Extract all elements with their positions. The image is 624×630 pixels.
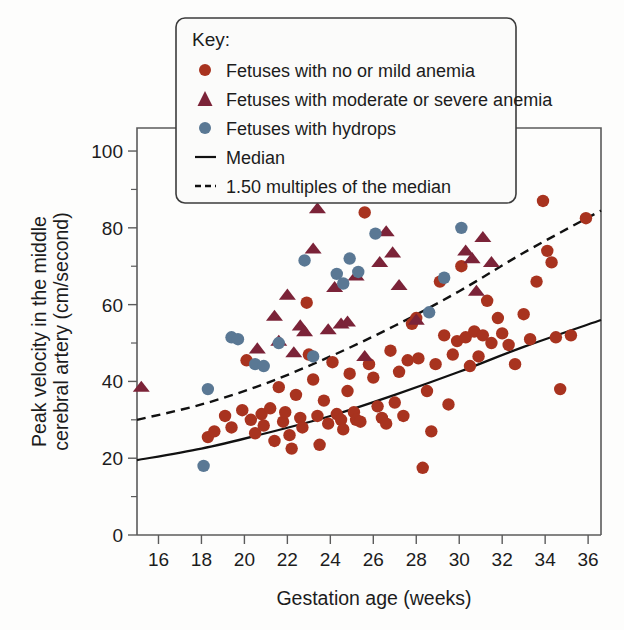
data-point-circle[interactable]: [225, 421, 237, 433]
data-point-circle[interactable]: [202, 383, 214, 395]
data-point-circle[interactable]: [258, 419, 270, 431]
data-point-triangle[interactable]: [371, 256, 388, 267]
data-point-circle[interactable]: [369, 227, 381, 239]
data-point-circle[interactable]: [219, 410, 231, 422]
data-point-circle[interactable]: [401, 354, 413, 366]
data-point-circle[interactable]: [264, 402, 276, 414]
data-point-circle[interactable]: [530, 275, 542, 287]
data-point-triangle[interactable]: [266, 310, 283, 321]
data-point-triangle[interactable]: [468, 285, 485, 296]
data-point-circle[interactable]: [290, 389, 302, 401]
data-point-circle[interactable]: [258, 360, 270, 372]
data-point-circle[interactable]: [464, 360, 476, 372]
data-point-circle[interactable]: [397, 410, 409, 422]
x-tick-label: 24: [320, 549, 342, 570]
data-point-circle[interactable]: [313, 439, 325, 451]
data-point-circle[interactable]: [545, 256, 557, 268]
legend-entry-label: 1.50 multiples of the median: [226, 177, 451, 197]
data-point-triangle[interactable]: [320, 323, 337, 334]
data-point-circle[interactable]: [380, 417, 392, 429]
data-point-circle[interactable]: [541, 245, 553, 257]
data-point-circle[interactable]: [283, 429, 295, 441]
data-point-circle[interactable]: [421, 385, 433, 397]
data-point-circle[interactable]: [371, 400, 383, 412]
data-point-circle[interactable]: [425, 425, 437, 437]
data-point-circle[interactable]: [537, 195, 549, 207]
data-point-triangle[interactable]: [483, 256, 500, 267]
data-point-circle[interactable]: [393, 366, 405, 378]
y-axis-title-line1: Peak velocity in the middle: [28, 216, 50, 447]
data-point-circle[interactable]: [354, 416, 366, 428]
data-point-circle[interactable]: [273, 337, 285, 349]
data-point-circle[interactable]: [524, 333, 536, 345]
data-point-circle[interactable]: [236, 404, 248, 416]
legend-entry-label: Fetuses with no or mild anemia: [226, 61, 476, 81]
data-point-triangle[interactable]: [133, 381, 150, 392]
data-point-circle[interactable]: [285, 442, 297, 454]
data-point-circle[interactable]: [208, 425, 220, 437]
data-point-circle[interactable]: [442, 398, 454, 410]
data-point-circle[interactable]: [311, 410, 323, 422]
data-point-circle[interactable]: [337, 423, 349, 435]
data-point-circle[interactable]: [318, 394, 330, 406]
data-point-circle[interactable]: [307, 373, 319, 385]
data-point-circle[interactable]: [307, 350, 319, 362]
data-point-circle[interactable]: [517, 308, 529, 320]
data-point-circle[interactable]: [232, 333, 244, 345]
data-point-circle[interactable]: [485, 337, 497, 349]
data-point-circle[interactable]: [438, 329, 450, 341]
data-point-triangle[interactable]: [305, 243, 322, 254]
data-point-triangle[interactable]: [384, 246, 401, 257]
data-point-circle[interactable]: [301, 297, 313, 309]
data-point-circle[interactable]: [389, 396, 401, 408]
data-point-triangle[interactable]: [309, 202, 326, 213]
data-point-circle[interactable]: [279, 406, 291, 418]
data-point-circle[interactable]: [580, 212, 592, 224]
data-point-circle[interactable]: [455, 222, 467, 234]
data-point-circle[interactable]: [343, 252, 355, 264]
data-point-triangle[interactable]: [391, 279, 408, 290]
data-point-triangle[interactable]: [279, 289, 296, 300]
y-tick-label: 20: [102, 448, 123, 469]
data-point-circle[interactable]: [298, 254, 310, 266]
data-point-circle[interactable]: [554, 383, 566, 395]
data-point-circle[interactable]: [472, 350, 484, 362]
data-point-circle[interactable]: [326, 356, 338, 368]
data-point-circle[interactable]: [268, 435, 280, 447]
data-point-triangle[interactable]: [356, 350, 373, 361]
data-point-circle[interactable]: [384, 345, 396, 357]
data-point-circle[interactable]: [273, 381, 285, 393]
data-point-triangle[interactable]: [474, 231, 491, 242]
data-point-circle[interactable]: [343, 368, 355, 380]
data-point-circle[interactable]: [322, 417, 334, 429]
data-point-circle[interactable]: [367, 371, 379, 383]
data-point-circle[interactable]: [341, 385, 353, 397]
data-point-circle[interactable]: [550, 331, 562, 343]
data-point-triangle[interactable]: [249, 342, 266, 353]
data-point-circle[interactable]: [423, 306, 435, 318]
legend-marker-hydrops-circle: [199, 122, 211, 134]
x-tick-label: 22: [277, 549, 298, 570]
data-point-circle[interactable]: [502, 339, 514, 351]
data-point-circle[interactable]: [337, 277, 349, 289]
data-point-circle[interactable]: [565, 329, 577, 341]
data-point-circle[interactable]: [412, 352, 424, 364]
data-point-triangle[interactable]: [285, 346, 302, 357]
data-point-circle[interactable]: [447, 348, 459, 360]
data-point-circle[interactable]: [359, 206, 371, 218]
y-axis-ticks: 020406080100: [91, 141, 137, 546]
data-point-circle[interactable]: [197, 460, 209, 472]
data-point-circle[interactable]: [438, 272, 450, 284]
data-point-circle[interactable]: [429, 358, 441, 370]
data-point-circle[interactable]: [417, 462, 429, 474]
data-point-circle[interactable]: [492, 312, 504, 324]
data-point-circle[interactable]: [296, 421, 308, 433]
legend-marker-mild-circle: [199, 64, 211, 76]
x-axis-title: Gestation age (weeks): [276, 587, 471, 609]
y-tick-label: 100: [91, 141, 123, 162]
data-point-circle[interactable]: [496, 327, 508, 339]
data-point-circle[interactable]: [245, 414, 257, 426]
data-point-circle[interactable]: [352, 266, 364, 278]
data-point-circle[interactable]: [481, 295, 493, 307]
data-point-circle[interactable]: [509, 358, 521, 370]
